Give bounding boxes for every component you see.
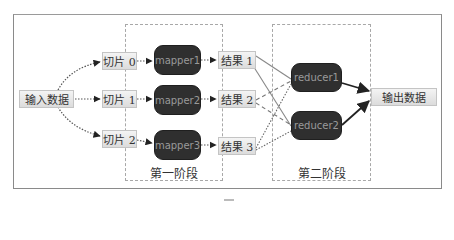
edge-input-slice2	[58, 107, 100, 136]
slice-1-node: 切片 1	[102, 90, 137, 108]
reducer-1-node: reducer1	[291, 63, 342, 92]
stage-2-label: 第二阶段	[298, 164, 346, 181]
slice-2-node: 切片 2	[102, 130, 137, 148]
stage-1-label: 第一阶段	[150, 164, 198, 181]
caption-fragment	[224, 199, 234, 201]
result-1-node: 结果 1	[218, 51, 256, 69]
mapper-2-node: mapper2	[154, 85, 201, 115]
reducer-2-node: reducer2	[291, 111, 342, 140]
result-2-node: 结果 2	[218, 90, 256, 108]
edge-input-slice0	[58, 62, 100, 90]
mapper-1-node: mapper1	[154, 45, 201, 75]
input-data-node: 输入数据	[19, 90, 74, 108]
result-3-node: 结果 3	[218, 137, 256, 155]
slice-0-node: 切片 0	[102, 52, 137, 70]
mapper-3-node: mapper3	[154, 130, 201, 160]
output-data-node: 输出数据	[371, 88, 437, 106]
